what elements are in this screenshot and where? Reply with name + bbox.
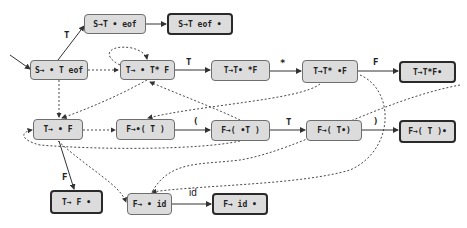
- edge-label-s3-s4: T: [186, 57, 191, 67]
- edge-label-s5-s6: F: [373, 57, 378, 67]
- edge-label-s7-s12: F: [62, 172, 67, 182]
- state-s11-final: F→( T )•: [399, 120, 456, 143]
- edge-label-s4-s5: *: [280, 58, 285, 68]
- state-s3: T→ • T* F: [120, 60, 175, 80]
- state-s2-final: S→T eof •: [167, 13, 233, 35]
- edge-label-s10-s11: ): [373, 116, 378, 126]
- state-s8: F→•( T ): [116, 119, 175, 140]
- state-s14-final: F→ id •: [212, 193, 268, 215]
- edge-label-s8-s9: (: [193, 116, 198, 126]
- state-s1: S→T • eof: [84, 14, 146, 34]
- state-s7: T→ • F: [33, 119, 83, 140]
- state-s4: T→T• *F: [211, 60, 270, 81]
- state-s12-final: T→ F •: [50, 190, 103, 214]
- state-s6-final: T→T*F•: [399, 61, 456, 83]
- edge-label-s0-s1: T: [64, 30, 69, 40]
- edge-label-s9-s10: T: [286, 117, 291, 127]
- state-s10: F→( T•): [306, 120, 362, 141]
- lr-automaton-diagram: S→T • eof S→T eof • S→ • T eof T→ • T* F…: [0, 0, 467, 228]
- state-s13: F→ • id: [127, 193, 172, 215]
- edge-label-s13-s14: id: [189, 187, 197, 198]
- state-s9: F→( •T ): [211, 120, 270, 141]
- state-s0-start: S→ • T eof: [30, 60, 88, 80]
- state-s5: T→T* •F: [302, 60, 358, 83]
